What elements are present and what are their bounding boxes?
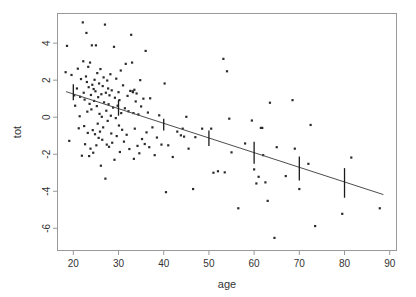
data-point bbox=[148, 146, 150, 148]
data-point bbox=[106, 79, 108, 81]
data-point bbox=[89, 148, 91, 150]
data-point bbox=[167, 144, 169, 146]
data-point bbox=[100, 93, 102, 95]
data-point bbox=[230, 151, 232, 153]
data-point bbox=[110, 115, 112, 117]
data-point bbox=[102, 85, 104, 87]
data-point bbox=[90, 108, 92, 110]
data-point bbox=[237, 207, 239, 209]
data-point bbox=[134, 128, 136, 130]
data-point bbox=[94, 90, 96, 92]
data-point bbox=[291, 99, 293, 101]
data-point bbox=[123, 141, 125, 143]
data-point bbox=[251, 119, 253, 121]
data-point bbox=[124, 107, 126, 109]
data-point bbox=[95, 144, 97, 146]
data-point bbox=[128, 148, 130, 150]
data-point bbox=[172, 156, 174, 158]
data-point bbox=[125, 63, 127, 65]
data-point bbox=[135, 100, 137, 102]
x-tick-label: 20 bbox=[68, 258, 80, 269]
data-point bbox=[90, 94, 92, 96]
data-point bbox=[87, 132, 89, 134]
data-point bbox=[273, 237, 275, 239]
data-point bbox=[180, 134, 182, 136]
data-point bbox=[95, 44, 97, 46]
data-point bbox=[164, 82, 166, 84]
data-point bbox=[314, 225, 316, 227]
x-axis-title: age bbox=[218, 278, 236, 290]
data-point bbox=[79, 115, 81, 117]
data-point bbox=[108, 146, 110, 148]
data-point bbox=[114, 97, 116, 99]
chart-container: 2030405060708090 420-2-4-6 age tot bbox=[0, 0, 416, 297]
data-point bbox=[103, 101, 105, 103]
data-point bbox=[133, 89, 135, 91]
data-point bbox=[81, 155, 83, 157]
data-point bbox=[276, 146, 278, 148]
data-point bbox=[108, 94, 110, 96]
data-point bbox=[158, 114, 160, 116]
data-point bbox=[80, 78, 82, 80]
data-point bbox=[100, 165, 102, 167]
data-point bbox=[126, 134, 128, 136]
scatter-plot: 2030405060708090 420-2-4-6 age tot bbox=[0, 0, 416, 297]
data-point bbox=[129, 90, 131, 92]
data-point bbox=[115, 117, 117, 119]
data-point bbox=[74, 105, 76, 107]
y-tick-label: 0 bbox=[41, 114, 52, 120]
data-point bbox=[341, 213, 343, 215]
data-point bbox=[194, 136, 196, 138]
data-point bbox=[105, 92, 107, 94]
data-point bbox=[210, 128, 212, 130]
data-point bbox=[107, 87, 109, 89]
data-point bbox=[131, 61, 133, 63]
data-point bbox=[97, 96, 99, 98]
data-point bbox=[192, 188, 194, 190]
data-point bbox=[92, 152, 94, 154]
data-point bbox=[136, 92, 138, 94]
data-point bbox=[66, 45, 68, 47]
y-tick-label: -4 bbox=[41, 186, 52, 195]
data-point bbox=[65, 71, 67, 73]
data-point bbox=[77, 68, 79, 70]
data-point bbox=[144, 143, 146, 145]
data-point bbox=[142, 98, 144, 100]
data-point bbox=[68, 140, 70, 142]
data-point bbox=[132, 91, 134, 93]
data-point bbox=[82, 21, 84, 23]
x-tick-label: 30 bbox=[113, 258, 125, 269]
data-point bbox=[98, 137, 100, 139]
data-point bbox=[99, 68, 101, 70]
data-point bbox=[89, 61, 91, 63]
data-point bbox=[88, 103, 90, 105]
data-point bbox=[244, 142, 246, 144]
data-point bbox=[185, 116, 187, 118]
data-point bbox=[88, 155, 90, 157]
data-point bbox=[113, 46, 115, 48]
data-point bbox=[310, 124, 312, 126]
data-point bbox=[84, 143, 86, 145]
data-point bbox=[105, 110, 107, 112]
data-point bbox=[141, 138, 143, 140]
data-point bbox=[70, 74, 72, 76]
data-point bbox=[104, 24, 106, 26]
data-point bbox=[96, 105, 98, 107]
data-point bbox=[258, 176, 260, 178]
data-point bbox=[120, 112, 122, 114]
data-point bbox=[298, 188, 300, 190]
data-point bbox=[101, 116, 103, 118]
y-tick-label: -6 bbox=[41, 223, 52, 232]
data-point bbox=[84, 98, 86, 100]
data-point bbox=[87, 66, 89, 68]
data-point bbox=[154, 154, 156, 156]
data-point bbox=[140, 105, 142, 107]
data-point bbox=[130, 34, 132, 36]
data-point bbox=[217, 170, 219, 172]
data-point bbox=[138, 152, 140, 154]
data-point bbox=[253, 168, 255, 170]
data-point bbox=[350, 156, 352, 158]
data-point bbox=[145, 131, 147, 133]
data-point bbox=[91, 84, 93, 86]
data-point bbox=[86, 111, 88, 113]
